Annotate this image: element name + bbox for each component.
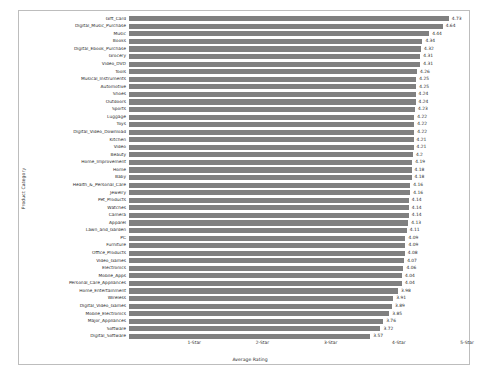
bar xyxy=(129,54,420,59)
category-label: Home_Entertainment xyxy=(33,289,129,293)
bar-row: Toys4.22 xyxy=(33,121,467,129)
category-label: Software xyxy=(33,327,129,331)
bar-value-label: 4.2 xyxy=(413,153,423,157)
category-label: Jewelry xyxy=(33,191,129,195)
bar-value-label: 4.08 xyxy=(405,251,418,255)
bar-row: Mobile_Apps4.04 xyxy=(33,272,467,280)
category-label: Office_Products xyxy=(33,251,129,255)
category-label: Tools xyxy=(33,70,129,74)
bar-value-label: 4.34 xyxy=(422,39,435,43)
bar xyxy=(129,288,398,293)
bar-track: 4.04 xyxy=(129,272,467,280)
bar xyxy=(129,296,393,301)
x-tick-label: 1-Star xyxy=(187,340,200,345)
category-label: Major_Appliances xyxy=(33,319,129,323)
bar-track: 4.07 xyxy=(129,257,467,265)
category-label: Pet_Products xyxy=(33,198,129,202)
x-tick-label: 5-Star xyxy=(460,340,473,345)
bar-row: Home4.18 xyxy=(33,166,467,174)
bar-value-label: 4.14 xyxy=(409,213,422,217)
bar-track: 4.31 xyxy=(129,53,467,61)
bar-row: PC4.09 xyxy=(33,234,467,242)
bar-row: Video_DVD4.31 xyxy=(33,60,467,68)
bar-row: Watches4.14 xyxy=(33,204,467,212)
category-label: Personal_Care_Appliances xyxy=(33,281,129,285)
bar-row: Electronics4.06 xyxy=(33,265,467,273)
bar-track: 4.26 xyxy=(129,68,467,76)
category-label: Electronics xyxy=(33,266,129,270)
bar-row: Software3.72 xyxy=(33,325,467,333)
category-label: Video xyxy=(33,145,129,149)
bar-track: 4.64 xyxy=(129,23,467,31)
bar-track: 4.23 xyxy=(129,106,467,114)
bar-row: Video_Games4.07 xyxy=(33,257,467,265)
x-tick-label: 4-Star xyxy=(392,340,405,345)
bar-row: Books4.34 xyxy=(33,38,467,46)
bar-track: 4.73 xyxy=(129,15,467,23)
bar-track: 4.31 xyxy=(129,60,467,68)
bar-row: Tools4.26 xyxy=(33,68,467,76)
bar-track: 4.32 xyxy=(129,45,467,53)
bar-track: 4.2 xyxy=(129,151,467,159)
bar-track: 3.76 xyxy=(129,318,467,326)
category-label: Shoes xyxy=(33,92,129,96)
bar-row: Digital_Video_Games3.89 xyxy=(33,302,467,310)
bar-row: Digital_Ebook_Purchase4.32 xyxy=(33,45,467,53)
x-axis-ticks: 1-Star2-Star3-Star4-Star5-Star xyxy=(33,340,467,352)
bar-row: Personal_Care_Appliances4.04 xyxy=(33,280,467,288)
category-label: Apparel xyxy=(33,221,129,225)
bar-value-label: 4.23 xyxy=(415,107,428,111)
bar-value-label: 4.31 xyxy=(420,62,433,66)
y-axis-title-text: Product Category xyxy=(22,168,27,210)
bar-track: 4.19 xyxy=(129,159,467,167)
bar-value-label: 4.11 xyxy=(407,228,420,232)
bar xyxy=(129,281,402,286)
bar-track: 4.22 xyxy=(129,128,467,136)
category-label: Watches xyxy=(33,206,129,210)
bar-track: 4.04 xyxy=(129,280,467,288)
bar-value-label: 3.76 xyxy=(383,319,396,323)
bar-track: 4.11 xyxy=(129,227,467,235)
bar xyxy=(129,175,412,180)
category-label: Digital_Music_Purchase xyxy=(33,24,129,28)
bar-row: Video4.21 xyxy=(33,144,467,152)
bar-rows: Gift_Card4.73Digital_Music_Purchase4.64M… xyxy=(33,15,467,340)
bar-track: 4.09 xyxy=(129,234,467,242)
bar-value-label: 3.98 xyxy=(398,289,411,293)
bar-track: 4.08 xyxy=(129,249,467,257)
bar-value-label: 4.25 xyxy=(416,85,429,89)
bar-value-label: 4.16 xyxy=(410,191,423,195)
bar-value-label: 4.73 xyxy=(449,17,462,21)
bar xyxy=(129,92,416,97)
bar-value-label: 3.91 xyxy=(393,296,406,300)
bar xyxy=(129,77,416,82)
category-label: Grocery xyxy=(33,54,129,58)
bar-row: Health_&_Personal_Care4.16 xyxy=(33,181,467,189)
category-label: Home_Improvement xyxy=(33,160,129,164)
bar-track: 4.22 xyxy=(129,113,467,121)
bar xyxy=(129,31,429,36)
bar xyxy=(129,334,370,339)
bar-row: Pet_Products4.14 xyxy=(33,197,467,205)
bar-track: 4.14 xyxy=(129,204,467,212)
bar-row: Beauty4.2 xyxy=(33,151,467,159)
bar-value-label: 4.22 xyxy=(414,122,427,126)
bar-value-label: 4.22 xyxy=(414,130,427,134)
bar-track: 4.18 xyxy=(129,166,467,174)
bar-value-label: 4.09 xyxy=(405,243,418,247)
bar-track: 4.24 xyxy=(129,98,467,106)
bar xyxy=(129,220,408,225)
bar-track: 4.34 xyxy=(129,38,467,46)
category-label: Digital_Software xyxy=(33,334,129,338)
bar-row: Sports4.23 xyxy=(33,106,467,114)
bar-value-label: 4.04 xyxy=(402,281,415,285)
bar-track: 4.24 xyxy=(129,91,467,99)
bar xyxy=(129,311,389,316)
bar-value-label: 4.18 xyxy=(412,175,425,179)
bar-row: Jewelry4.16 xyxy=(33,189,467,197)
category-label: Furniture xyxy=(33,243,129,247)
bar xyxy=(129,167,412,172)
category-label: Music xyxy=(33,32,129,36)
bar-track: 4.18 xyxy=(129,174,467,182)
bar-value-label: 4.07 xyxy=(404,259,417,263)
